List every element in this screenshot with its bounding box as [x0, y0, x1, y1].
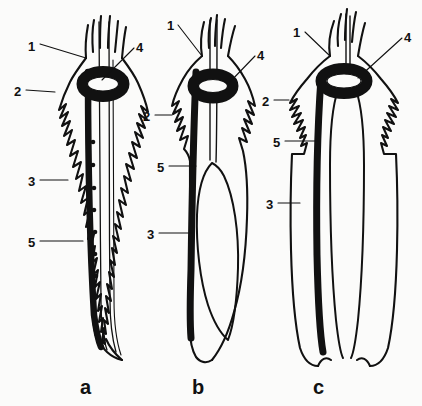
- label-a-5: 5: [28, 236, 35, 249]
- label-a-4: 4: [136, 41, 143, 54]
- leader-line-a-2: [26, 90, 55, 92]
- specimen-c-dark-shaft: [317, 78, 323, 352]
- specimen-a-apical-spines: [86, 16, 126, 58]
- label-a-1: 1: [28, 40, 35, 53]
- leader-line-c-4: [358, 38, 402, 78]
- label-c-3: 3: [266, 198, 273, 211]
- specimen-c-inner-lamina-right: [351, 90, 364, 358]
- label-b-2: 2: [143, 110, 150, 123]
- figure-plate: 1 2 3 5 4 1 2 5 3 4 1 2 5 3 4 a b c: [0, 0, 422, 406]
- specimen-c-outline-left: [290, 56, 330, 366]
- specimen-c-bottom-notch: [318, 358, 370, 366]
- label-c-4: 4: [404, 31, 411, 44]
- specimen-c-ring-inner-edge: [327, 74, 361, 88]
- label-b-1: 1: [167, 19, 174, 32]
- label-c-1: 1: [293, 26, 300, 39]
- label-b-4: 4: [257, 49, 264, 62]
- specimen-a-right-margin: [101, 58, 148, 360]
- label-b-3: 3: [147, 228, 154, 241]
- panel-letter-a: a: [80, 377, 91, 397]
- specimen-b-ring-inner-edge: [199, 80, 228, 93]
- label-b-5: 5: [157, 161, 164, 174]
- panel-letter-c: c: [313, 377, 324, 397]
- specimen-a: [59, 16, 148, 360]
- label-c-5: 5: [273, 136, 280, 149]
- label-c-2: 2: [262, 95, 269, 108]
- specimen-c-apical-spines: [329, 9, 365, 56]
- specimen-b-dark-shaft: [190, 72, 196, 338]
- specimen-b-inner-lamina: [197, 163, 238, 340]
- label-a-3: 3: [28, 175, 35, 188]
- specimen-b-apical-spines: [201, 15, 235, 56]
- panel-letter-b: b: [192, 377, 204, 397]
- specimen-c: [290, 9, 398, 366]
- specimen-b: [172, 15, 255, 362]
- label-a-2: 2: [14, 85, 21, 98]
- leader-line-c-1: [305, 32, 330, 56]
- morphology-drawing: [0, 0, 422, 406]
- leader-line-a-1: [40, 44, 86, 58]
- leader-line-b-1: [178, 25, 202, 56]
- specimen-c-inner-lamina-left: [330, 90, 343, 358]
